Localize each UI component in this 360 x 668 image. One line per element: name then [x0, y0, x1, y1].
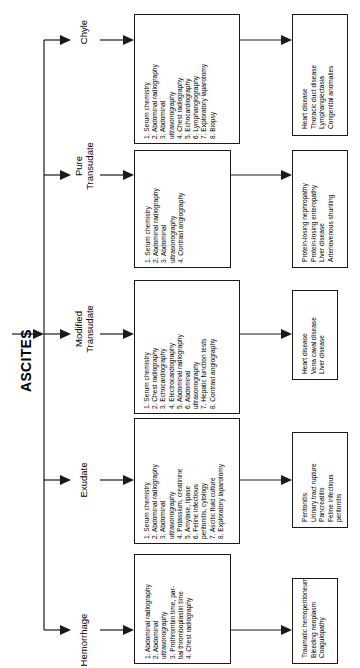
list-item-continued: peritonitis, cytology [200, 464, 208, 539]
outcomes-list-chyle: Heart disease Thoracic duct disease Lymp… [301, 65, 335, 129]
list-item: 7. Ascitic fluid culture [209, 464, 217, 539]
list-item: 4. Chest radiography [185, 584, 193, 659]
list-item: 8. Biopsy [209, 64, 217, 139]
list-item: Thoracic duct disease [310, 65, 319, 129]
list-item: 6. Lymphangiography [192, 64, 200, 139]
list-item-continued: ultrasonography [192, 334, 200, 409]
branch-label-modified-transudate-line2: Transudate [84, 293, 95, 365]
list-item: 3. Abdominal [160, 188, 168, 263]
list-item: Vena caval disease [310, 317, 319, 374]
list-item: Congenital anomalies [327, 65, 336, 129]
list-item-continued: ultrasonography [168, 64, 176, 139]
outcomes-list-hemorrhage: Traumatic hemoperitoneum Bleeding neopla… [301, 578, 327, 658]
list-item: 2. Abdominal [152, 584, 160, 659]
list-item: 2. Chest radiography [151, 334, 159, 409]
outcomes-box-chyle: Heart disease Thoracic duct disease Lymp… [292, 14, 348, 136]
list-item: 7. Hepatic function tests [200, 334, 208, 409]
branch-label-pure-transudate-line1: Pure [73, 156, 84, 176]
list-item-continued: ultrasonography [168, 464, 176, 539]
branch-label-exudate: Exudate [78, 452, 89, 508]
diagnostics-list-modified-transudate: 1. Serum chemistry 2. Chest radiography … [143, 334, 217, 409]
diagnostics-list-pure-transudate: 1. Serum chemistry 2. Abdominal radiogra… [144, 188, 185, 263]
list-item: Protein-losing enteropathy [310, 183, 319, 262]
branch-label-pure-transudate-line2: Transudate [84, 130, 95, 202]
list-item: 3. Abdominal [159, 64, 167, 139]
list-item: Heart disease [301, 317, 310, 374]
list-item: 7. Exploratory laparotomy [200, 64, 208, 139]
list-item: Traumatic hemoperitoneum [301, 578, 310, 658]
list-item: 8. Exploratory laparotomy [217, 464, 225, 539]
list-item-continued: peritonitis [335, 463, 344, 522]
list-item: 6. Feline infectious [192, 464, 200, 539]
branch-label-chyle-line1: Chyle [78, 20, 89, 44]
diagnostics-list-exudate: 1. Serum chemistry 2. Abdominal radiogra… [143, 464, 225, 539]
outcomes-box-pure-transudate: Protein-losing nephropathy Protein-losin… [292, 150, 348, 268]
diagnostics-box-exudate: 1. Serum chemistry 2. Abdominal radiogra… [134, 418, 240, 544]
ascites-flowchart: ASCITES Chyle Pure Transudate Modified T… [0, 0, 360, 668]
list-item-continued: ultrasonography [160, 584, 168, 659]
branch-label-modified-transudate-line1: Modified [73, 311, 84, 347]
outcomes-list-pure-transudate: Protein-losing nephropathy Protein-losin… [301, 183, 335, 262]
list-item: 1. Abdominal radiography [144, 584, 152, 659]
list-item: 3. Prothrombin time, par- [169, 584, 177, 659]
list-item: 4. Electrocardiography [168, 334, 176, 409]
list-item: Lymphangiectasia [318, 65, 327, 129]
diagnostics-box-hemorrhage: 1. Abdominal radiography 2. Abdominal ul… [134, 554, 231, 664]
diagnostics-list-chyle: 1. Serum chemistry 2. Abdominal radiogra… [143, 64, 217, 139]
list-item: Coagulopathy [318, 578, 327, 658]
list-item: Liver disease [318, 183, 327, 262]
list-item: 1. Serum chemistry [143, 464, 151, 539]
list-item: 4. Chest radiography [176, 64, 184, 139]
diagnostics-box-modified-transudate: 1. Serum chemistry 2. Chest radiography … [134, 280, 240, 414]
branch-label-modified-transudate: Modified Transudate [73, 293, 95, 365]
list-item: 6. Abdominal [184, 334, 192, 409]
branch-label-chyle: Chyle [78, 4, 89, 60]
list-item: Heart disease [301, 65, 310, 129]
list-item: 2. Abdominal radiography [151, 64, 159, 139]
diagnostics-box-chyle: 1. Serum chemistry 2. Abdominal radiogra… [134, 14, 240, 144]
outcomes-list-modified-transudate: Heart disease Vena caval disease Liver d… [301, 317, 327, 374]
outcomes-box-exudate: Peritonitis Urinary tract rupture Pancre… [292, 432, 348, 528]
branch-label-hemorrhage-line1: Hemorrhage [78, 614, 89, 667]
list-item: 8. Contrast angiography [209, 334, 217, 409]
list-item: Liver disease [318, 317, 327, 374]
list-item: Bleeding neoplasm [310, 578, 319, 658]
list-item: 4. Contrast angiography [177, 188, 185, 263]
branch-label-hemorrhage: Hemorrhage [78, 612, 89, 668]
list-item: 1. Serum chemistry [143, 334, 151, 409]
list-item: Urinary tract rupture [310, 463, 319, 522]
diagnostics-list-hemorrhage: 1. Abdominal radiography 2. Abdominal ul… [144, 584, 193, 659]
list-item: Pancreatitis [318, 463, 327, 522]
list-item: 1. Serum chemistry [143, 64, 151, 139]
list-item: Protein-losing nephropathy [301, 183, 310, 262]
branch-label-exudate-line1: Exudate [78, 463, 89, 498]
list-item: 3. Abdominal [159, 464, 167, 539]
list-item: Peritonitis [301, 463, 310, 522]
list-item: Arteriovenous shunting [327, 183, 336, 262]
list-item: 5. Abdominal radiography [176, 334, 184, 409]
diagnostics-box-pure-transudate: 1. Serum chemistry 2. Abdominal radiogra… [134, 150, 231, 268]
list-item: 3. Echocardiography [159, 334, 167, 409]
list-item: 5. Echocardiography [184, 64, 192, 139]
list-item-continued: tial thromboplastin time [177, 584, 185, 659]
outcomes-box-hemorrhage: Traumatic hemoperitoneum Bleeding neopla… [292, 578, 338, 664]
list-item: 1. Serum chemistry [144, 188, 152, 263]
list-item: 5. Amylase, lipase [184, 464, 192, 539]
outcomes-list-exudate: Peritonitis Urinary tract rupture Pancre… [301, 463, 344, 522]
outcomes-box-modified-transudate: Heart disease Vena caval disease Liver d… [292, 290, 338, 380]
list-item: 2. Abdominal radiography [152, 188, 160, 263]
list-item-continued: ultrasonography [169, 188, 177, 263]
branch-label-pure-transudate: Pure Transudate [73, 130, 95, 202]
list-item: 4. Potassium, creatinine [176, 464, 184, 539]
diagram-title: ASCITES [18, 329, 34, 392]
list-item: 2. Abdominal radiography [151, 464, 159, 539]
list-item: Feline infectious [327, 463, 336, 522]
